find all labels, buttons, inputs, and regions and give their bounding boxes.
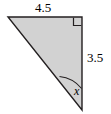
triangle-shape: [8, 17, 82, 110]
angle-label: x: [74, 85, 79, 97]
right-side-length-label: 3.5: [87, 51, 103, 64]
top-side-length-label: 4.5: [35, 1, 51, 14]
triangle-figure: 4.5 3.5 x: [0, 0, 111, 114]
